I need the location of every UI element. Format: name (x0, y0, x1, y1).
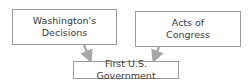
node-label: First U.S. Government (74, 58, 178, 82)
node-label-line1: Washington's (33, 15, 96, 27)
node-label-line2: Decisions (33, 27, 96, 39)
arrow-washington-to-government (84, 45, 89, 57)
node-label-line1: Acts of (166, 17, 210, 29)
node-acts-of-congress: Acts of Congress (135, 11, 241, 47)
node-label-line2: Congress (166, 29, 210, 41)
arrow-congress-to-government (155, 47, 159, 57)
node-first-us-government: First U.S. Government (73, 61, 179, 79)
node-washingtons-decisions: Washington's Decisions (12, 9, 117, 45)
